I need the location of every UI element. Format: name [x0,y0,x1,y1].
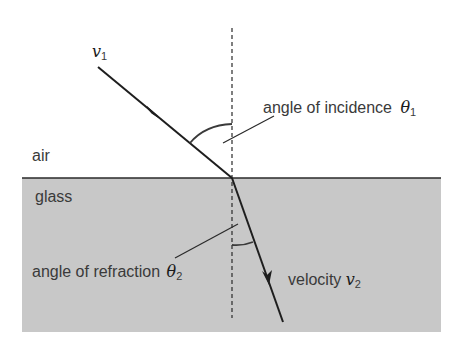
glass-label: glass [35,189,72,205]
air-label: air [32,148,50,164]
theta2-symbol: θ [167,262,177,281]
v1-subscript: 1 [101,50,107,62]
incident-arrow-icon [147,107,158,117]
theta1-symbol: θ [400,98,410,117]
incidence-text: angle of incidence [263,99,392,116]
incident-ray [98,67,232,178]
incidence-pointer [223,116,274,143]
velocity-text: velocity [288,271,341,288]
theta2-subscript: 2 [176,270,182,282]
refraction-label: angle of refraction θ2 [32,264,182,282]
v2-symbol: v [346,270,355,289]
v2-subscript: 2 [355,278,361,290]
v1-label: v1 [92,44,107,62]
v1-symbol: v [92,42,101,61]
incidence-label: angle of incidence θ1 [263,100,416,118]
velocity-label: velocity v2 [288,272,361,290]
refraction-text: angle of refraction [32,263,160,280]
theta1-subscript: 1 [410,106,416,118]
refraction-diagram [0,0,461,337]
incidence-angle-arc [190,124,232,143]
